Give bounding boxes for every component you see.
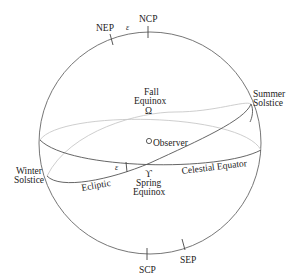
label-celestial-equator: Celestial Equator [181, 158, 248, 176]
label-ecliptic: Ecliptic [81, 178, 112, 193]
fall-equinox-symbol: Ω [145, 106, 152, 116]
label-winter-solstice-2: Solstice [14, 175, 44, 185]
observer-icon [146, 138, 151, 143]
label-nep: NEP [96, 23, 114, 33]
celestial-sphere-diagram: NEP ε NCP Fall Equinox Ω Summer Solstice… [0, 0, 299, 279]
label-ncp: NCP [139, 14, 157, 24]
label-observer: Observer [153, 138, 189, 148]
label-epsilon-angle: ε [115, 163, 119, 172]
label-spring-equinox-2: Equinox [133, 187, 165, 197]
label-scp: SCP [139, 265, 156, 275]
label-sep: SEP [180, 255, 196, 265]
label-fall-equinox-2: Equinox [134, 96, 166, 106]
label-summer-solstice-2: Solstice [253, 98, 283, 108]
sep-tick [182, 239, 185, 250]
label-epsilon-top: ε [126, 23, 130, 32]
